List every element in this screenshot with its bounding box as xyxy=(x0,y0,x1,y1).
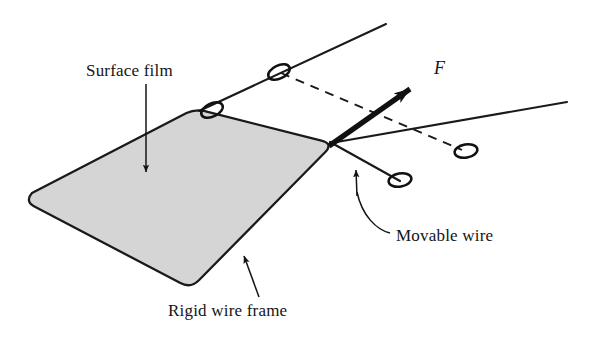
ring-icon-lower-right xyxy=(454,143,479,160)
figure-canvas: Surface film Rigid wire frame Movable wi… xyxy=(0,0,596,344)
ring-icon-upper-right xyxy=(266,61,292,83)
movable-wire-line xyxy=(330,142,400,181)
label-surface-film: Surface film xyxy=(86,61,173,81)
rigid-wire-upper-rail xyxy=(199,24,386,111)
label-force-f: F xyxy=(434,58,445,79)
force-vector-arrow xyxy=(329,89,410,146)
force-arrow-shaft xyxy=(329,89,410,146)
movable-wire-leader-curve xyxy=(357,192,390,233)
upper-rail-line xyxy=(199,24,386,111)
surface-film-shape xyxy=(29,110,329,285)
leader-rigid-wire-frame xyxy=(244,256,259,297)
film-surface-path xyxy=(29,110,329,285)
rigid-frame-leader-arrow xyxy=(244,256,259,297)
label-movable-wire: Movable wire xyxy=(396,226,493,246)
diagram-svg xyxy=(0,0,596,344)
movable-wire-leader-arrow xyxy=(356,170,357,196)
movable-wire-segment xyxy=(330,142,400,181)
leader-movable-wire xyxy=(356,170,390,233)
label-rigid-wire-frame: Rigid wire frame xyxy=(168,301,287,321)
